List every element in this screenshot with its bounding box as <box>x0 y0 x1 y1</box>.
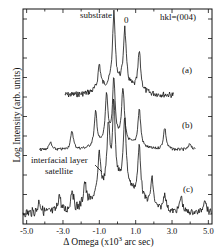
curve-b-label: (b) <box>182 121 193 130</box>
x-axis-label: Δ Omega (x103 arc sec) <box>0 235 217 247</box>
curve-c-label: (c) <box>183 185 193 194</box>
curve-a-label: (a) <box>182 66 192 75</box>
xrd-rocking-curve-chart: substrate 0 hkl=(004) (a) (b) (c) interf… <box>0 0 217 251</box>
zero-order-label: 0 <box>124 16 129 25</box>
curve-b <box>39 78 195 151</box>
substrate-label: substrate <box>80 11 112 20</box>
y-axis-label: Log Intensity (arb. units) <box>12 60 22 170</box>
satellite-label: satellite <box>45 167 73 176</box>
x-axis-label-unit: arc sec) <box>122 237 154 247</box>
interfacial-layer-label: interfacial layer <box>31 156 88 165</box>
curve-a <box>65 10 174 98</box>
hkl-label: hkl=(004) <box>160 13 196 22</box>
x-axis-label-text: Δ Omega (x10 <box>63 237 118 247</box>
